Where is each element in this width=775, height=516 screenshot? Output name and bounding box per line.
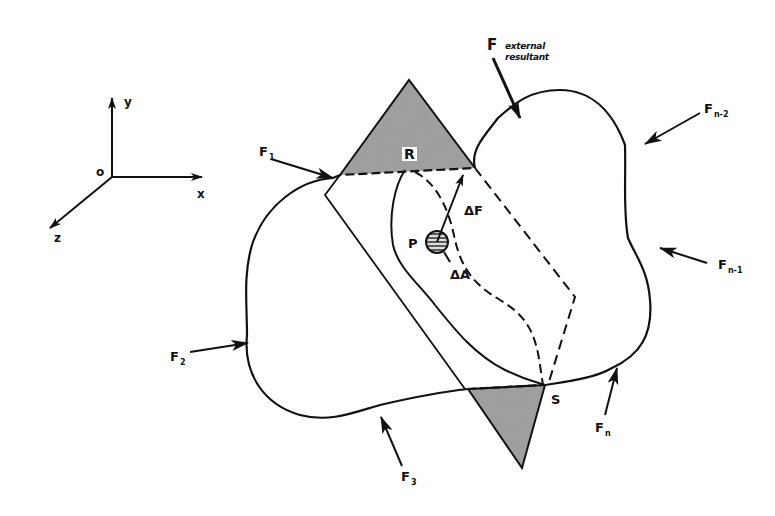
axis-label-x: x: [197, 188, 205, 200]
force-fn2-arrow: [645, 113, 700, 144]
force-fn-arrow: [605, 368, 617, 415]
section-plane-back-edge: [475, 168, 575, 385]
diagram-graphics: [0, 0, 775, 516]
force-fn1-arrow: [660, 248, 707, 263]
force-fn-1-label: Fn-1: [718, 258, 742, 271]
external-resultant-arrow: [493, 58, 520, 118]
force-f2-label: F2: [170, 350, 185, 363]
section-plane-front-edge: [325, 175, 465, 389]
force-f3-label: F3: [401, 470, 416, 483]
delta-a-label: ΔA: [450, 268, 470, 281]
axis-label-y: y: [124, 96, 132, 108]
axis-label-z: z: [54, 232, 61, 244]
force-f1-arrow: [271, 159, 333, 178]
cutting-plane-bottom-triangle: [468, 385, 545, 468]
point-r-label: R: [402, 147, 417, 161]
external-resultant-note-1: external: [505, 42, 545, 51]
force-f2-arrow: [190, 343, 248, 352]
axis-label-origin: o: [96, 166, 104, 178]
delta-f-vector: [437, 175, 463, 242]
force-f3-arrow: [381, 417, 402, 466]
force-fn-2-label: Fn-2: [704, 102, 728, 115]
diagram-canvas: y o x z F external resultant F1 F2 F3 Fn…: [0, 0, 775, 516]
external-resultant-label: F: [487, 38, 497, 53]
point-s-label: S: [551, 393, 560, 406]
force-f1-label: F1: [259, 145, 274, 158]
point-p-label: P: [408, 237, 418, 250]
coordinate-axes: [50, 98, 202, 228]
delta-f-label: ΔF: [464, 204, 483, 217]
external-resultant-note-2: resultant: [505, 53, 549, 62]
force-fn-label: Fn: [595, 421, 611, 434]
